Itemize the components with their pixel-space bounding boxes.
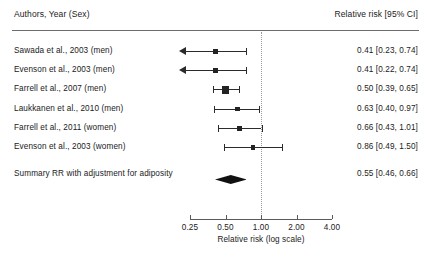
ci-left-arrowhead <box>179 66 186 74</box>
study-effect-value: 0.86 [0.49, 1.50] <box>357 142 418 151</box>
ci-upper-cap <box>246 48 247 55</box>
ci-lower-cap <box>218 125 219 132</box>
ci-lower-cap <box>213 86 214 93</box>
study-label: Evenson et al., 2003 (women) <box>14 142 126 151</box>
ci-upper-cap <box>259 106 260 113</box>
summary-row: Summary RR with adjustment for adiposity… <box>0 165 427 184</box>
ci-upper-cap <box>246 67 247 74</box>
axis-tick <box>297 215 298 219</box>
ci-lower-cap <box>224 144 225 151</box>
table-row: Farrell et al., 2011 (women)0.66 [0.43, … <box>0 119 427 138</box>
summary-effect-value: 0.55 [0.46, 0.66] <box>357 169 418 178</box>
study-effect-value: 0.41 [0.22, 0.74] <box>357 65 418 74</box>
study-label: Evenson et al., 2003 (men) <box>14 65 115 74</box>
table-row: Farrell et al., 2007 (men)0.50 [0.39, 0.… <box>0 80 427 99</box>
study-label: Sawada et al., 2003 (men) <box>14 46 113 55</box>
table-row: Laukkanen et al., 2010 (men)0.63 [0.40, … <box>0 100 427 119</box>
study-effect-value: 0.41 [0.23, 0.74] <box>357 46 418 55</box>
axis-tick-label: 4.00 <box>324 223 340 232</box>
study-label: Farrell et al., 2007 (men) <box>14 84 106 93</box>
header-divider <box>12 30 419 31</box>
column-header-authors: Authors, Year (Sex) <box>14 9 90 19</box>
point-estimate-marker <box>251 145 255 149</box>
axis-tick-label: 0.25 <box>182 223 198 232</box>
axis-tick-label: 0.50 <box>217 223 233 232</box>
axis-title: Relative risk (log scale) <box>217 235 304 244</box>
study-label: Laukkanen et al., 2010 (men) <box>14 104 123 113</box>
table-row: Evenson et al., 2003 (women)0.86 [0.49, … <box>0 138 427 157</box>
point-estimate-marker <box>213 49 217 53</box>
study-effect-value: 0.66 [0.43, 1.01] <box>357 123 418 132</box>
summary-label: Summary RR with adjustment for adiposity <box>14 169 173 178</box>
study-effect-value: 0.50 [0.39, 0.65] <box>357 84 418 93</box>
axis-tick <box>261 215 262 219</box>
axis-baseline <box>190 219 332 220</box>
ci-left-arrowhead <box>179 47 186 55</box>
table-row: Sawada et al., 2003 (men)0.41 [0.23, 0.7… <box>0 42 427 61</box>
column-header-relative-risk: Relative risk [95% CI] <box>335 9 418 19</box>
forest-plot: Authors, Year (Sex) Relative risk [95% C… <box>0 0 427 259</box>
table-row: Evenson et al., 2003 (men)0.41 [0.22, 0.… <box>0 61 427 80</box>
point-estimate-marker <box>222 86 229 93</box>
point-estimate-marker <box>237 126 242 131</box>
ci-lower-cap <box>214 106 215 113</box>
axis-tick <box>332 215 333 219</box>
study-effect-value: 0.63 [0.40, 0.97] <box>357 104 418 113</box>
study-label: Farrell et al., 2011 (women) <box>14 123 116 132</box>
axis-tick <box>226 215 227 219</box>
axis-tick <box>190 215 191 219</box>
ci-upper-cap <box>262 125 263 132</box>
summary-diamond <box>215 170 246 179</box>
axis-tick-label: 2.00 <box>288 223 304 232</box>
ci-upper-cap <box>282 144 283 151</box>
ci-upper-cap <box>239 86 240 93</box>
axis-tick-label: 1.00 <box>253 223 269 232</box>
point-estimate-marker <box>213 68 217 72</box>
point-estimate-marker <box>235 107 240 112</box>
